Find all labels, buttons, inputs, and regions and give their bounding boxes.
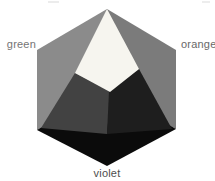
scan-artifacts [48, 1, 210, 3]
scan-speck-left [48, 1, 59, 3]
scan-speck-right [202, 1, 210, 3]
color-hexagon-diagram: green orange violet [0, 0, 215, 181]
label-violet: violet [94, 167, 121, 179]
label-green: green [7, 38, 36, 50]
hexagon-svg: green orange violet [0, 0, 215, 181]
hexagon-faces [37, 9, 176, 166]
label-orange: orange [181, 38, 215, 50]
